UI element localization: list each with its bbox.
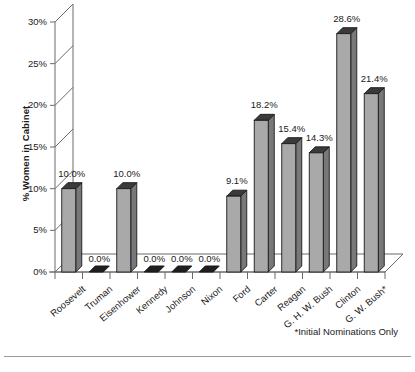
bar-value-label: 18.2% [241,100,287,110]
bar-side-face [296,138,302,272]
bar-7 [254,114,274,272]
bar-side-face [241,190,247,272]
bottom-divider [4,356,411,357]
bar-value-label: 0.0% [76,254,122,264]
y-tick-label: 30% [13,17,47,27]
bar-front-face [254,120,268,272]
bar-side-face [323,147,329,272]
y-tick-label: 5% [13,225,47,235]
bar-front-face [337,34,351,272]
y-tick-label: 15% [13,142,47,152]
bar-value-label: 28.6% [324,14,370,24]
bar-front-face [62,189,76,272]
y-tick-label: 10% [13,184,47,194]
bar-9 [309,147,329,272]
bar-side-face [378,88,384,272]
bar-chart: % Women in Cabinet 0%5%10%15%20%25%30% 1… [0,0,415,372]
bar-front-face [364,94,378,272]
bar-front-face [282,144,296,272]
bar-8 [282,138,302,272]
bar-value-label: 21.4% [351,74,397,84]
bar-front-face [309,153,323,272]
bar-value-label: 0.0% [186,254,232,264]
bar-value-label: 9.1% [214,176,260,186]
y-tick-label: 0% [13,267,47,277]
y-tick-label: 20% [13,100,47,110]
bar-side-face [351,28,357,272]
bar-11 [364,88,384,272]
bar-value-label: 10.0% [49,169,95,179]
footnote: *Initial Nominations Only [295,326,399,337]
bar-value-label: 14.3% [296,133,342,143]
bar-value-label: 10.0% [104,169,150,179]
y-tick-label: 25% [13,59,47,69]
bar-10 [337,28,357,272]
bar-side-face [268,114,274,272]
